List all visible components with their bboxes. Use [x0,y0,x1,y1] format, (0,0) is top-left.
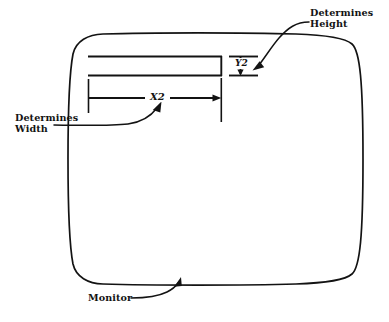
monitor-bezel-outline [68,33,363,285]
width-dimension-label: X2 [147,91,168,102]
monitor-dimension-diagram: Determines Height Determines Width Monit… [0,0,389,322]
monitor-label: Monitor [88,292,132,303]
determines-height-leader-group [253,22,310,71]
width-right-arrowhead [213,95,222,102]
monitor-leader-group [131,277,182,298]
monitor-arrowhead [174,277,182,287]
screen-bar-rectangle [88,56,222,76]
determines-height-leader-line [259,22,309,65]
diagram-canvas [0,0,389,322]
determines-height-label: Determines Height [310,7,373,30]
height-dimension-label: Y2 [234,58,249,68]
determines-height-arrowhead [253,61,265,70]
determines-width-label: Determines Width [15,112,78,135]
